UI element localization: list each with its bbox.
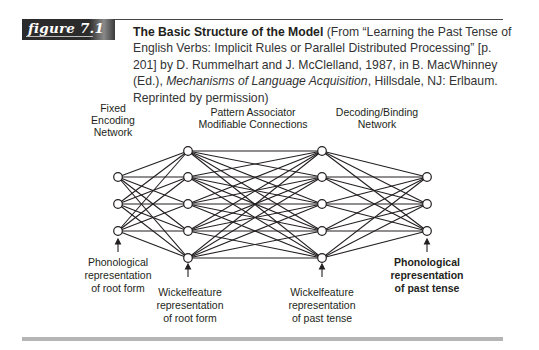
label-decoding-binding-network: Decoding/Binding Network <box>336 106 418 130</box>
network-diagram: Fixed Encoding Network Pattern Associato… <box>0 0 539 350</box>
node-wickelfeature-root <box>184 147 193 156</box>
node-phonological-past <box>423 173 432 182</box>
svg-text:of past tense: of past tense <box>292 312 352 324</box>
arrow-up-icon <box>320 264 325 277</box>
svg-text:Wickelfeature: Wickelfeature <box>158 286 222 298</box>
svg-text:Wickelfeature: Wickelfeature <box>290 286 354 298</box>
node-wickelfeature-past <box>318 173 327 182</box>
node-phonological-root <box>114 200 123 209</box>
svg-text:Pattern Associator: Pattern Associator <box>210 106 296 118</box>
node-wickelfeature-past <box>318 254 327 263</box>
svg-text:representation: representation <box>288 299 355 311</box>
svg-text:representation: representation <box>156 299 223 311</box>
connection-line <box>322 177 427 258</box>
svg-text:representation: representation <box>391 269 464 281</box>
node-wickelfeature-past <box>318 147 327 156</box>
svg-text:of past tense: of past tense <box>395 282 460 294</box>
label-phonological-root: Phonological representation of root form <box>84 256 151 294</box>
svg-text:Network: Network <box>94 126 133 138</box>
svg-text:Phonological: Phonological <box>88 256 148 268</box>
svg-text:Phonological: Phonological <box>394 256 460 268</box>
connection-line <box>118 151 188 231</box>
node-wickelfeature-root <box>184 254 193 263</box>
svg-text:Fixed: Fixed <box>100 102 126 114</box>
bottom-rule <box>22 337 503 341</box>
arrow-up-icon <box>425 239 430 252</box>
node-wickelfeature-root <box>184 173 193 182</box>
label-wickelfeature-root: Wickelfeature representation of root for… <box>156 286 223 324</box>
label-wickelfeature-past: Wickelfeature representation of past ten… <box>288 286 355 324</box>
arrow-up-icon <box>116 239 121 252</box>
arrow-up-icon <box>186 264 191 277</box>
node-wickelfeature-root <box>184 227 193 236</box>
svg-text:Modifiable Connections: Modifiable Connections <box>198 118 307 130</box>
svg-text:of root form: of root form <box>163 312 217 324</box>
svg-text:representation: representation <box>84 269 151 281</box>
connection-line <box>118 151 188 177</box>
label-fixed-encoding-network: Fixed Encoding Network <box>91 102 135 138</box>
connection-line <box>322 151 427 177</box>
node-wickelfeature-root <box>184 200 193 209</box>
svg-text:Decoding/Binding: Decoding/Binding <box>336 106 418 118</box>
svg-text:of root form: of root form <box>91 282 145 294</box>
node-phonological-past <box>423 227 432 236</box>
svg-text:Network: Network <box>358 118 397 130</box>
label-pattern-associator: Pattern Associator Modifiable Connection… <box>198 106 307 130</box>
label-phonological-past: Phonological representation of past tens… <box>391 256 464 294</box>
node-phonological-root <box>114 227 123 236</box>
node-wickelfeature-past <box>318 200 327 209</box>
node-phonological-past <box>423 200 432 209</box>
svg-text:Encoding: Encoding <box>91 114 135 126</box>
connections <box>118 151 427 258</box>
connection-line <box>118 231 188 258</box>
connection-line <box>322 231 427 258</box>
node-phonological-root <box>114 173 123 182</box>
node-wickelfeature-past <box>318 227 327 236</box>
